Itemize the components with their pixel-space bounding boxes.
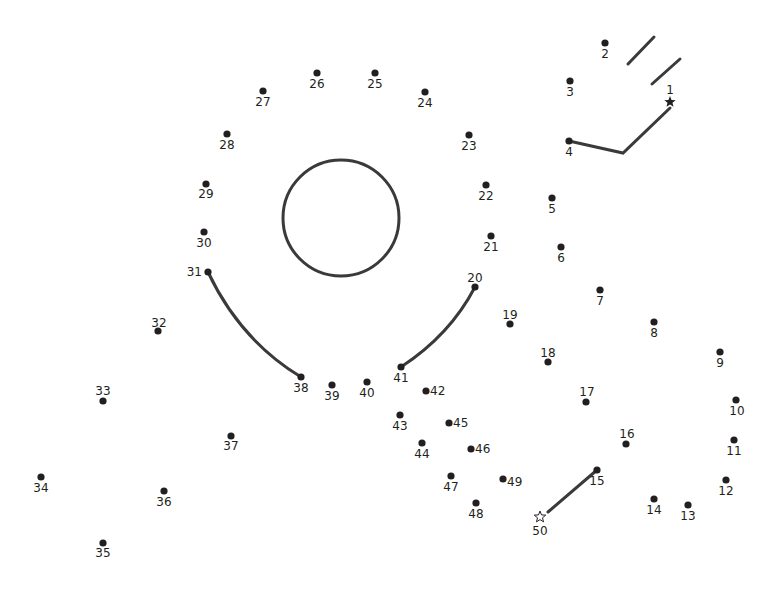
dot-number-label: 43 [392,419,407,433]
dot-marker [445,419,452,426]
dot-number-label: 3 [566,85,574,99]
dot-marker [622,440,629,447]
dot-24: 24 [417,88,432,110]
dot-number-label: 19 [502,308,517,322]
dot-marker [99,397,106,404]
dot-28: 28 [219,130,234,152]
segment-20-to-41 [401,287,475,367]
dot-25: 25 [367,69,382,91]
dot-number-label: 16 [619,427,634,441]
dot-number-label: 18 [540,346,555,360]
dot-40: 40 [359,378,374,400]
dot-4: 4 [565,137,573,159]
dot-44: 44 [414,439,429,461]
dot-number-label: 9 [716,356,724,370]
dot-50: 50 [532,511,547,538]
dot-marker [716,348,723,355]
dot-number-label: 38 [293,381,308,395]
dot-marker [601,39,608,46]
dot-13: 13 [680,501,695,523]
dot-9: 9 [716,348,724,370]
dot-number-label: 6 [557,251,565,265]
dot-marker [487,232,494,239]
dot-marker [596,286,603,293]
dot-marker [465,131,472,138]
dot-39: 39 [324,381,339,403]
motion-line-1 [628,37,654,64]
dot-number-label: 17 [579,385,594,399]
dot-45: 45 [445,416,468,430]
dot-marker [650,495,657,502]
dot-35: 35 [95,539,110,560]
dot-marker [371,69,378,76]
dot-number-label: 37 [223,439,238,453]
dot-19: 19 [502,308,517,328]
dot-38: 38 [293,373,308,395]
dot-marker [397,363,404,370]
dot-number-label: 30 [196,236,211,250]
dot-marker [37,473,44,480]
dot-29: 29 [198,180,213,201]
dot-47: 47 [443,472,458,494]
dot-number-label: 8 [650,326,658,340]
dot-marker [422,387,429,394]
dot-number-label: 21 [483,240,498,254]
dot-marker [548,194,555,201]
dot-marker [499,475,506,482]
numbered-dots: 1234567891011121314151617181920212223242… [33,39,744,560]
dot-36: 36 [156,487,171,509]
dot-marker [259,87,266,94]
dot-number-label: 36 [156,495,171,509]
dot-marker [396,411,403,418]
dot-number-label: 41 [393,371,408,385]
dot-number-label: 7 [596,294,604,308]
dot-marker [684,501,691,508]
dot-number-label: 45 [453,416,468,430]
dot-2: 2 [601,39,609,61]
dot-3: 3 [566,77,574,99]
dot-number-label: 42 [430,384,445,398]
dot-marker [447,472,454,479]
motion-line-2 [652,59,680,84]
dot-10: 10 [729,396,744,418]
dot-number-label: 49 [507,475,522,489]
dot-1: 1 [664,83,675,107]
dot-number-label: 35 [95,546,110,560]
dot-number-label: 26 [309,77,324,91]
dot-30: 30 [196,228,211,250]
dot-number-label: 31 [187,265,202,279]
dot-to-dot-puzzle: 1234567891011121314151617181920212223242… [0,0,766,589]
dot-number-label: 47 [443,480,458,494]
dot-number-label: 4 [565,145,573,159]
dot-46: 46 [467,442,490,456]
dot-marker [200,228,207,235]
dot-marker [482,181,489,188]
dot-number-label: 25 [367,77,382,91]
dot-32: 32 [151,316,166,335]
dot-marker [328,381,335,388]
dot-marker [363,378,370,385]
dot-marker [730,436,737,443]
segment-31-to-38 [208,272,301,377]
end-star-icon [534,511,545,522]
dot-33: 33 [95,384,110,405]
dot-number-label: 15 [589,474,604,488]
dot-marker [557,243,564,250]
dot-number-label: 27 [255,95,270,109]
dot-21: 21 [483,232,498,254]
dot-marker [421,88,428,95]
dot-18: 18 [540,346,555,366]
dot-marker [297,373,304,380]
dot-number-label: 24 [417,96,432,110]
dot-15: 15 [589,466,604,488]
dot-marker [472,499,479,506]
dot-7: 7 [596,286,604,308]
dot-number-label: 2 [601,47,609,61]
dot-marker [722,476,729,483]
dot-number-label: 28 [219,138,234,152]
dot-41: 41 [393,363,408,385]
dot-number-label: 13 [680,509,695,523]
start-star-icon [664,96,675,107]
dot-number-label: 12 [718,484,733,498]
dot-8: 8 [650,318,658,340]
